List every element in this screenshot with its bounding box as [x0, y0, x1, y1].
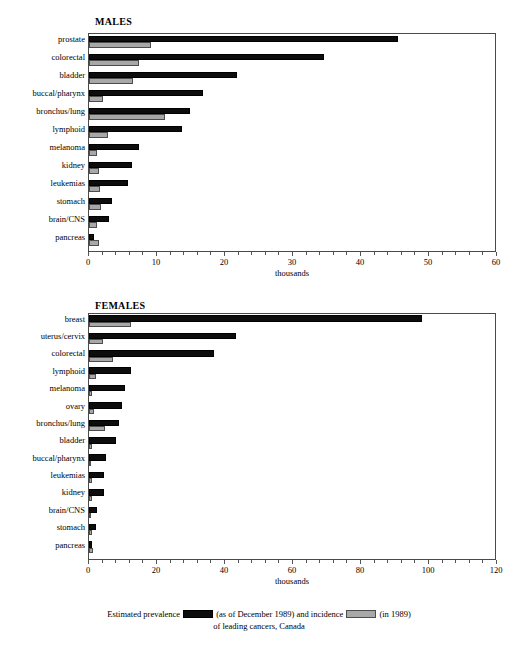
- bar-row: pancreas: [89, 232, 495, 250]
- caption-incidence-text: (as of December 1989) and incidence: [216, 609, 343, 619]
- category-label: leukemias: [51, 471, 85, 480]
- x-tick-minor: [387, 560, 388, 563]
- x-tick-label: 10: [152, 257, 161, 267]
- x-tick-label: 60: [492, 257, 501, 267]
- bar-incidence: [89, 461, 91, 466]
- x-tick-minor: [482, 252, 483, 255]
- x-tick-minor: [197, 560, 198, 563]
- x-tick-label: 30: [288, 257, 297, 267]
- x-tick-minor: [183, 252, 184, 255]
- category-label: ovary: [66, 402, 85, 411]
- bar-row: ovary: [89, 401, 495, 418]
- x-tick-minor: [455, 560, 456, 563]
- x-tick-major: [292, 252, 293, 256]
- panel-title-males: MALES: [95, 16, 132, 27]
- x-tick-minor: [265, 252, 266, 255]
- category-label: bladder: [60, 71, 86, 80]
- bar-row: brain/CNS: [89, 214, 495, 232]
- x-tick-minor: [102, 560, 103, 563]
- x-tick-minor: [414, 560, 415, 563]
- category-label: stomach: [57, 523, 85, 532]
- x-tick-minor: [210, 560, 211, 563]
- x-tick-label: 20: [220, 257, 229, 267]
- bar-row: prostate: [89, 34, 495, 52]
- x-tick-minor: [414, 252, 415, 255]
- bar-row: buccal/pharynx: [89, 453, 495, 470]
- x-tick-minor: [333, 560, 334, 563]
- x-tick-minor: [170, 560, 171, 563]
- bar-prevalence: [89, 90, 203, 97]
- bar-incidence: [89, 496, 92, 501]
- x-tick-label: 60: [288, 565, 297, 575]
- bar-row: kidney: [89, 488, 495, 505]
- bar-incidence: [89, 444, 92, 449]
- x-tick-minor: [319, 252, 320, 255]
- bar-row: leukemias: [89, 178, 495, 196]
- x-tick-minor: [374, 252, 375, 255]
- bar-incidence: [89, 374, 96, 379]
- category-label: colorectal: [51, 349, 85, 358]
- x-tick-minor: [278, 252, 279, 255]
- bar-row: breast: [89, 314, 495, 331]
- x-tick-label: 100: [422, 565, 435, 575]
- x-tick-minor: [251, 560, 252, 563]
- bar-row: bladder: [89, 70, 495, 88]
- bar-prevalence: [89, 437, 116, 444]
- caption-prevalence-text: Estimated prevalence: [107, 609, 180, 619]
- caption-year-text: (in 1989): [379, 609, 410, 619]
- bar-row: uterus/cervix: [89, 331, 495, 348]
- x-tick-label: 0: [86, 257, 90, 267]
- category-label: buccal/pharynx: [33, 89, 85, 98]
- x-tick-major: [156, 252, 157, 256]
- bar-incidence: [89, 322, 131, 327]
- category-label: uterus/cervix: [41, 332, 85, 341]
- bar-incidence: [89, 391, 92, 396]
- bar-incidence: [89, 168, 99, 174]
- bar-incidence: [89, 240, 99, 246]
- x-tick-minor: [482, 560, 483, 563]
- x-tick-major: [156, 560, 157, 564]
- x-tick-major: [360, 252, 361, 256]
- figure-caption: Estimated prevalence(as of December 1989…: [0, 608, 518, 632]
- caption-line-1: Estimated prevalence(as of December 1989…: [0, 608, 518, 620]
- x-tick-minor: [129, 560, 130, 563]
- bar-row: colorectal: [89, 349, 495, 366]
- category-label: bladder: [60, 436, 86, 445]
- x-tick-minor: [346, 252, 347, 255]
- x-tick-minor: [170, 252, 171, 255]
- x-tick-major: [292, 560, 293, 564]
- category-label: lymphoid: [52, 367, 85, 376]
- x-tick-minor: [142, 560, 143, 563]
- bar-incidence: [89, 186, 100, 192]
- category-label: buccal/pharynx: [33, 454, 85, 463]
- x-tick-label: 20: [152, 565, 161, 575]
- x-axis-females: thousands 020406080100120: [88, 560, 496, 590]
- x-tick-minor: [238, 252, 239, 255]
- bar-row: leukemias: [89, 471, 495, 488]
- prevalence-swatch-icon: [183, 610, 213, 618]
- x-tick-major: [496, 252, 497, 256]
- x-tick-major: [224, 560, 225, 564]
- bar-incidence: [89, 150, 97, 156]
- category-label: bronchus/lung: [36, 107, 85, 116]
- x-tick-major: [88, 560, 89, 564]
- bar-row: kidney: [89, 160, 495, 178]
- x-tick-minor: [469, 560, 470, 563]
- bar-rows-males: prostatecolorectalbladderbuccal/pharynxb…: [89, 34, 495, 251]
- category-label: brain/CNS: [49, 215, 85, 224]
- bar-incidence: [89, 357, 113, 362]
- category-label: breast: [65, 315, 85, 324]
- x-tick-major: [428, 560, 429, 564]
- bar-row: buccal/pharynx: [89, 88, 495, 106]
- bar-incidence: [89, 132, 108, 138]
- x-tick-minor: [442, 560, 443, 563]
- bar-row: pancreas: [89, 540, 495, 557]
- category-label: melanoma: [50, 384, 85, 393]
- plot-area-females: breastuterus/cervixcolorectallymphoidmel…: [88, 313, 496, 560]
- x-tick-major: [88, 252, 89, 256]
- chart-panel-females: FEMALES breastuterus/cervixcolorectallym…: [0, 290, 518, 580]
- bar-row: melanoma: [89, 142, 495, 160]
- x-tick-minor: [197, 252, 198, 255]
- x-tick-minor: [319, 560, 320, 563]
- bar-incidence: [89, 204, 101, 210]
